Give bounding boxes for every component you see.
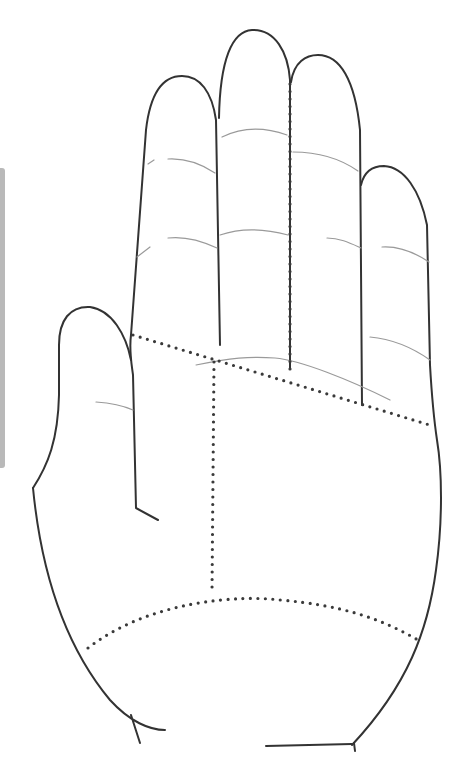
little-crease-upper [382, 247, 429, 262]
finger-base-line [133, 335, 433, 426]
little-crease-lower [370, 337, 430, 360]
ring-crease-upper [293, 152, 358, 171]
ring-crease-lower [327, 238, 361, 248]
center-vertical-line [212, 362, 214, 592]
index-finger-outline [131, 76, 220, 345]
ring-finger-outline [291, 55, 362, 405]
palm-left-outline [33, 488, 165, 743]
middle-finger-outline [219, 30, 290, 368]
wrist-right-outline [266, 743, 355, 751]
middle-crease-upper [222, 129, 287, 137]
palm-diagram [0, 0, 469, 771]
thumb-outer-outline [33, 307, 131, 488]
index-crease-lower [137, 238, 217, 257]
thumb-outline [130, 335, 158, 520]
index-crease-upper [148, 159, 215, 173]
thumb-crease [96, 402, 133, 410]
wrist-arc-line [88, 598, 418, 648]
little-finger-outline [352, 166, 441, 745]
middle-crease-lower [220, 230, 288, 235]
